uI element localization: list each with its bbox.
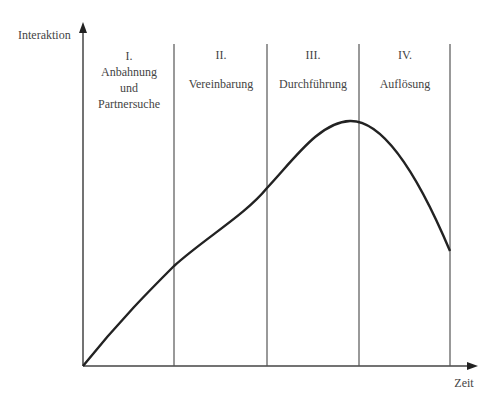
phase-4-numeral: IV. [360,48,450,63]
phase-1-name-line-3: Partnersuche [88,96,170,112]
phase-2-name: Vereinbarung [176,77,266,92]
phase-3-numeral: III. [268,48,358,63]
phase-3-name: Durchführung [268,77,358,92]
phase-4-label: IV. Auflösung [360,48,450,92]
phase-1-numeral: I. [88,48,170,64]
x-axis-label: Zeit [444,376,484,391]
y-axis-label: Interaktion [18,28,71,43]
phase-3-label: III. Durchführung [268,48,358,92]
phase-1-label: I. Anbahnung und Partnersuche [88,48,170,112]
phase-1-name-line-1: Anbahnung [88,64,170,80]
phase-1-name-line-2: und [88,80,170,96]
x-axis-arrow-icon [467,362,478,370]
phase-2-label: II. Vereinbarung [176,48,266,92]
phase-4-name: Auflösung [360,77,450,92]
phase-2-numeral: II. [176,48,266,63]
y-axis-arrow-icon [79,22,87,33]
